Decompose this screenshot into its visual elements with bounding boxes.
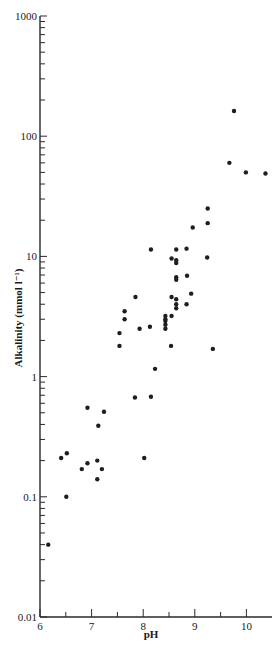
data-point (174, 297, 178, 301)
data-point (122, 309, 126, 313)
data-point (137, 327, 141, 331)
data-point (169, 256, 173, 260)
data-point (133, 295, 137, 299)
data-point (184, 302, 188, 306)
data-point (232, 109, 236, 113)
data-point (227, 161, 231, 165)
data-point (174, 302, 178, 306)
data-point (163, 327, 167, 331)
data-point (263, 171, 267, 175)
data-point (142, 456, 146, 460)
data-point (149, 247, 153, 251)
data-point (185, 274, 189, 278)
data-point (191, 225, 195, 229)
data-point (85, 461, 89, 465)
data-point (189, 291, 193, 295)
data-point (102, 410, 106, 414)
data-point (80, 467, 84, 471)
data-point (148, 325, 152, 329)
x-tick-label: 9 (192, 620, 198, 632)
scatter-chart: 0.010.11101001000 678910 pH Alkalinity (… (0, 0, 280, 650)
data-point (59, 456, 63, 460)
data-point (174, 306, 178, 310)
y-tick-label: 100 (21, 130, 38, 142)
data-point (46, 542, 50, 546)
x-tick-label: 6 (37, 620, 43, 632)
data-point (96, 424, 100, 428)
x-axis-label: pH (144, 628, 159, 640)
y-tick-label: 10 (26, 250, 38, 262)
data-point (169, 344, 173, 348)
data-point (65, 451, 69, 455)
data-point (133, 395, 137, 399)
data-point (174, 261, 178, 265)
data-point (122, 317, 126, 321)
data-point (169, 295, 173, 299)
axes (40, 16, 272, 617)
data-point (205, 255, 209, 259)
data-point (100, 467, 104, 471)
data-point (244, 170, 248, 174)
data-point (85, 406, 89, 410)
data-point (117, 331, 121, 335)
y-tick-label: 1000 (15, 10, 38, 22)
y-tick-label: 0.1 (23, 491, 37, 503)
y-tick-label: 0.01 (18, 611, 37, 623)
data-point (174, 247, 178, 251)
data-point (169, 314, 173, 318)
data-point (64, 495, 68, 499)
data-point (211, 347, 215, 351)
y-axis-label: Alkalinity (mmol l⁻¹) (12, 268, 25, 367)
data-points (46, 109, 268, 547)
data-point (206, 221, 210, 225)
data-point (149, 395, 153, 399)
data-point (206, 206, 210, 210)
data-point (174, 277, 178, 281)
data-point (95, 458, 99, 462)
x-tick-label: 10 (241, 620, 253, 632)
data-point (95, 477, 99, 481)
x-tick-label: 7 (89, 620, 95, 632)
data-point (117, 344, 121, 348)
data-point (184, 246, 188, 250)
data-point (153, 367, 157, 371)
y-tick-label: 1 (32, 371, 38, 383)
data-point (163, 323, 167, 327)
